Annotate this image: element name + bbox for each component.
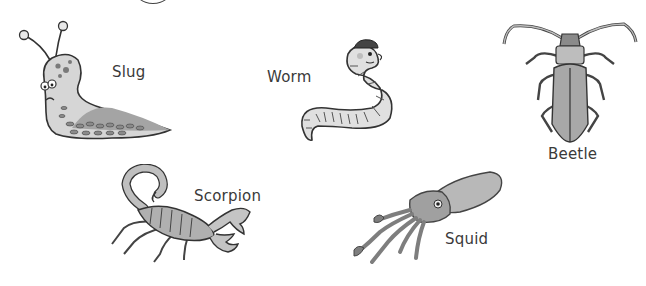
label-slug: Slug [112, 65, 146, 80]
beetle-illustration [500, 14, 640, 146]
squid-illustration [350, 168, 506, 268]
worksheet-canvas: Slug Worm [0, 0, 646, 286]
label-beetle: Beetle [548, 147, 597, 162]
label-scorpion: Scorpion [194, 189, 261, 204]
circle-shape-partial [133, 0, 173, 4]
scorpion-illustration [104, 164, 254, 264]
label-worm: Worm [267, 70, 311, 85]
label-squid: Squid [445, 232, 488, 247]
slug-illustration [12, 20, 182, 145]
worm-illustration [296, 36, 406, 148]
